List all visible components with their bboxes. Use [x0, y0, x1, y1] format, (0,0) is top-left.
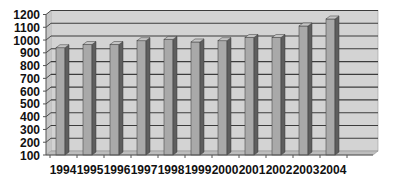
y-tick-label: 200	[20, 136, 40, 150]
x-tick-label: 1995	[77, 163, 104, 177]
y-tick-label: 1000	[13, 34, 40, 48]
y-tick-label: 600	[20, 85, 40, 99]
bar-2003	[299, 23, 312, 155]
x-tick-label: 1996	[104, 163, 131, 177]
y-tick-label: 1200	[13, 8, 40, 22]
bar-chart: 100200300400500600700800900100011001200 …	[0, 0, 393, 181]
x-tick-label: 1994	[50, 163, 77, 177]
x-tick-label: 1998	[158, 163, 185, 177]
bar-2001	[245, 34, 258, 155]
x-tick-label: 2004	[320, 163, 347, 177]
y-axis	[43, 15, 46, 156]
y-tick-label: 500	[20, 97, 40, 111]
bar-1999	[191, 39, 204, 155]
x-tick-label: 2000	[212, 163, 239, 177]
y-axis-labels: 100200300400500600700800900100011001200	[13, 8, 40, 163]
y-tick-label: 800	[20, 59, 40, 73]
bar-1995	[83, 42, 96, 155]
x-tick-label: 2003	[293, 163, 320, 177]
y-tick-label: 100	[20, 149, 40, 163]
bar-1998	[164, 36, 177, 155]
x-tick-label: 1997	[131, 163, 158, 177]
bar-1997	[137, 38, 150, 155]
y-tick-label: 1100	[14, 21, 40, 35]
y-tick-label: 900	[20, 46, 40, 60]
x-axis-labels: 1994199519961997199819992000200120022003…	[50, 163, 347, 177]
bar-2004	[326, 16, 339, 155]
y-tick-label: 400	[20, 110, 40, 124]
x-tick-label: 1999	[185, 163, 212, 177]
x-tick-label: 2002	[266, 163, 293, 177]
y-tick-label: 300	[20, 123, 40, 137]
bar-2000	[218, 38, 231, 155]
x-tick-label: 2001	[239, 163, 266, 177]
y-tick-label: 700	[20, 72, 40, 86]
bar-1994	[56, 45, 69, 155]
bar-1996	[110, 42, 123, 155]
x-axis	[46, 155, 373, 158]
bar-2002	[272, 34, 285, 155]
